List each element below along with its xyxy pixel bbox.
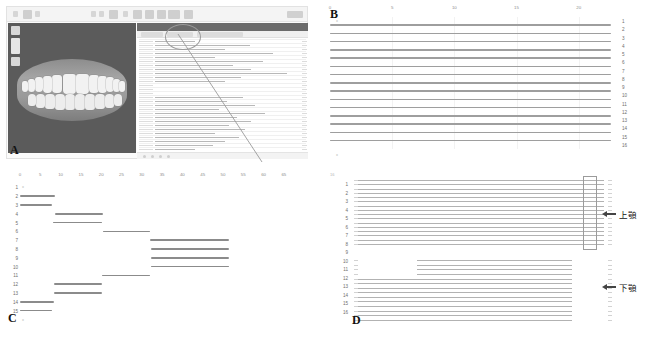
gantt-tick bbox=[302, 73, 307, 74]
panel-b-bar bbox=[330, 107, 611, 109]
tooth-lower-lateral-right bbox=[85, 94, 95, 110]
panel-c-row-label: 7 bbox=[6, 238, 18, 243]
align-icon[interactable] bbox=[133, 10, 142, 19]
app-toolbar[interactable] bbox=[7, 7, 307, 22]
panel-d-bar-upper bbox=[354, 235, 604, 236]
gantt-row-label-stub bbox=[139, 69, 153, 70]
gantt-footer-bar[interactable] bbox=[137, 152, 308, 159]
footer-dot-1[interactable] bbox=[143, 155, 146, 158]
gantt-row-label-stub bbox=[139, 117, 153, 118]
gantt-bar bbox=[155, 105, 255, 106]
panel-d-bar-lower bbox=[354, 279, 572, 280]
footer-dot-2[interactable] bbox=[151, 155, 154, 158]
panel-d-tick-right bbox=[608, 235, 612, 236]
panel-d-tick-right bbox=[608, 180, 612, 181]
gantt-tick bbox=[302, 93, 307, 94]
undo-icon[interactable] bbox=[91, 11, 96, 17]
panel-b-bar bbox=[330, 33, 611, 35]
panel-d-bar-lower bbox=[354, 292, 572, 293]
compare-icon[interactable] bbox=[168, 10, 180, 19]
gantt-tab-row[interactable] bbox=[137, 31, 308, 38]
gantt-bar bbox=[155, 133, 215, 134]
gantt-tick bbox=[302, 77, 307, 78]
tab-3[interactable] bbox=[197, 32, 243, 37]
panel-d-tick-right-lower bbox=[608, 279, 612, 280]
panel-d-bar-upper bbox=[354, 189, 604, 190]
panel-d-bar-upper bbox=[354, 193, 604, 194]
gantt-tick bbox=[302, 89, 307, 90]
panel-d-row-label: 16 bbox=[336, 309, 348, 314]
panel-b-bar bbox=[330, 66, 611, 68]
gantt-tick bbox=[302, 137, 307, 138]
measure-icon[interactable] bbox=[123, 11, 128, 17]
gantt-row-label-stub bbox=[139, 125, 153, 126]
panel-d-tick-left bbox=[354, 201, 358, 202]
tab-1[interactable] bbox=[141, 32, 163, 37]
gantt-row-label-stub bbox=[139, 77, 153, 78]
panel-b-row-label: 5 bbox=[622, 52, 625, 57]
document-icon[interactable] bbox=[23, 10, 32, 19]
tooth-lower-molar-right bbox=[114, 94, 122, 106]
application-window bbox=[6, 6, 308, 159]
redo-icon[interactable] bbox=[109, 10, 118, 19]
panel-d-row-label: 7 bbox=[336, 233, 348, 238]
treatment-stage-gantt[interactable] bbox=[137, 23, 308, 159]
gantt-bar bbox=[155, 65, 233, 66]
gantt-header-bar bbox=[137, 23, 308, 31]
tooth-lower-premolar-right bbox=[105, 94, 114, 108]
panel-d-row-label: 2 bbox=[336, 190, 348, 195]
chevron-down-icon-2[interactable] bbox=[99, 11, 104, 17]
panel-d-tick-left bbox=[354, 184, 358, 185]
window-controls[interactable] bbox=[287, 11, 303, 18]
panel-d-bar-lower bbox=[417, 265, 572, 266]
panel-d-tick-left-lower bbox=[354, 297, 358, 298]
chevron-down-icon[interactable] bbox=[35, 11, 40, 17]
panel-c-bar bbox=[20, 310, 52, 312]
tooth-upper-premolar-left bbox=[35, 77, 43, 92]
gantt-tick bbox=[302, 141, 307, 142]
attachment-icon[interactable] bbox=[157, 10, 166, 19]
gantt-bar bbox=[155, 101, 227, 102]
gantt-row-label-stub bbox=[139, 65, 153, 66]
panel-c-bar bbox=[54, 283, 103, 285]
panel-c-corner-mark-top: x bbox=[22, 184, 24, 189]
panel-d-bar-lower bbox=[354, 320, 572, 321]
panel-d-tick-right bbox=[608, 227, 612, 228]
tooth-upper-lateral-left bbox=[52, 75, 62, 93]
gantt-row-label-stub bbox=[139, 113, 153, 114]
tooth-upper-central-right bbox=[76, 74, 89, 94]
panel-d-row-label: 15 bbox=[336, 301, 348, 306]
panel-d-row-label: 12 bbox=[336, 275, 348, 280]
gantt-row-label-stub bbox=[139, 97, 153, 98]
panel-c-bar bbox=[103, 231, 150, 233]
panel-d-bar-upper bbox=[354, 210, 604, 211]
panel-d-tick-left bbox=[354, 235, 358, 236]
panel-d-tick-right bbox=[608, 206, 612, 207]
gantt-tick bbox=[302, 53, 307, 54]
panel-b-row-label: 13 bbox=[622, 118, 627, 123]
3d-dentition-viewport[interactable] bbox=[8, 23, 136, 153]
panel-d-tick-left bbox=[354, 218, 358, 219]
segment-icon[interactable] bbox=[145, 10, 154, 19]
panel-d-bar-lower bbox=[354, 315, 572, 316]
tooth-lower-premolar-left bbox=[36, 94, 45, 108]
panel-d-tick-right-lower bbox=[608, 274, 612, 275]
menu-icon[interactable] bbox=[13, 11, 18, 17]
panel-c-bar bbox=[20, 204, 52, 206]
panel-d-tick-left-lower bbox=[354, 260, 358, 261]
footer-dot-3[interactable] bbox=[159, 155, 162, 158]
footer-dot-4[interactable] bbox=[167, 155, 170, 158]
gantt-row-label-stub bbox=[139, 133, 153, 134]
panel-c-bar bbox=[151, 266, 229, 268]
export-icon[interactable] bbox=[184, 10, 193, 19]
panel-b-row-label: 16 bbox=[622, 142, 627, 147]
gantt-row-label-stub bbox=[139, 53, 153, 54]
panel-d-bar-upper bbox=[354, 244, 604, 245]
zoom-in-button[interactable] bbox=[11, 26, 20, 35]
panel-d-bar-lower bbox=[354, 301, 572, 302]
panel-c-row-label: 11 bbox=[6, 273, 18, 278]
zoom-slider[interactable] bbox=[11, 38, 20, 54]
panel-d-row-label: 14 bbox=[336, 292, 348, 297]
gantt-bar bbox=[155, 145, 213, 146]
panel-c-row-label: 8 bbox=[6, 247, 18, 252]
